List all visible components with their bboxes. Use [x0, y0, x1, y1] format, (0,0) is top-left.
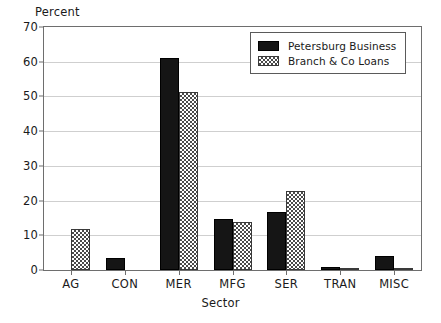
- y-axis-tick-mark: [39, 61, 44, 62]
- legend-swatch-branch-and-co-loans: [258, 56, 279, 66]
- y-axis-tick-mark: [39, 270, 44, 271]
- x-axis-tick-label: SER: [275, 277, 298, 291]
- x-axis-tick-mark: [233, 270, 234, 275]
- x-axis-tick-label: MISC: [379, 277, 409, 291]
- bar: [286, 191, 305, 270]
- x-axis-tick-label: TRAN: [324, 277, 356, 291]
- chart-legend: Petersburg Business Branch & Co Loans: [250, 32, 406, 74]
- bar: [71, 229, 90, 270]
- bar: [233, 222, 252, 270]
- bar-group: [52, 27, 90, 270]
- y-axis-tick-mark: [39, 27, 44, 28]
- x-axis-label: Sector: [0, 296, 441, 310]
- bar: [267, 212, 286, 270]
- x-axis-tick-mark: [286, 270, 287, 275]
- bar: [214, 219, 233, 270]
- y-axis-label: Percent: [35, 5, 80, 19]
- legend-label: Petersburg Business: [288, 40, 396, 52]
- x-axis-tick-mark: [71, 270, 72, 275]
- y-axis-tick-label: 70: [23, 20, 38, 34]
- x-axis-tick-label: AG: [62, 277, 79, 291]
- bar-group: [160, 27, 198, 270]
- y-axis-tick-mark: [39, 235, 44, 236]
- bar-group: [214, 27, 252, 270]
- y-axis-tick-mark: [39, 131, 44, 132]
- y-axis-tick-label: 40: [23, 124, 38, 138]
- y-axis-tick-label: 0: [30, 263, 38, 277]
- bar: [340, 268, 359, 270]
- bar-group: [106, 27, 144, 270]
- x-axis-tick-mark: [340, 270, 341, 275]
- x-axis-tick-label: MER: [166, 277, 192, 291]
- bar-chart: Percent 010203040506070AGCONMERMFGSERTRA…: [0, 0, 441, 323]
- y-axis-tick-label: 60: [23, 55, 38, 69]
- y-axis-tick-mark: [39, 200, 44, 201]
- bar: [394, 268, 413, 270]
- legend-label: Branch & Co Loans: [288, 55, 389, 67]
- legend-item: Branch & Co Loans: [258, 53, 396, 68]
- y-axis-tick-mark: [39, 165, 44, 166]
- x-axis-tick-mark: [394, 270, 395, 275]
- y-axis-tick-label: 10: [23, 228, 38, 242]
- x-axis-tick-mark: [125, 270, 126, 275]
- x-axis-tick-mark: [179, 270, 180, 275]
- bar: [179, 92, 198, 270]
- bar: [106, 258, 125, 270]
- y-axis-tick-label: 50: [23, 89, 38, 103]
- bar: [321, 267, 340, 270]
- bar: [375, 256, 394, 270]
- x-axis-tick-label: MFG: [219, 277, 245, 291]
- x-axis-tick-label: CON: [111, 277, 138, 291]
- y-axis-tick-mark: [39, 96, 44, 97]
- y-axis-tick-label: 20: [23, 194, 38, 208]
- legend-item: Petersburg Business: [258, 38, 396, 53]
- legend-swatch-petersburg-business: [258, 41, 279, 51]
- bar: [160, 58, 179, 270]
- y-axis-tick-label: 30: [23, 159, 38, 173]
